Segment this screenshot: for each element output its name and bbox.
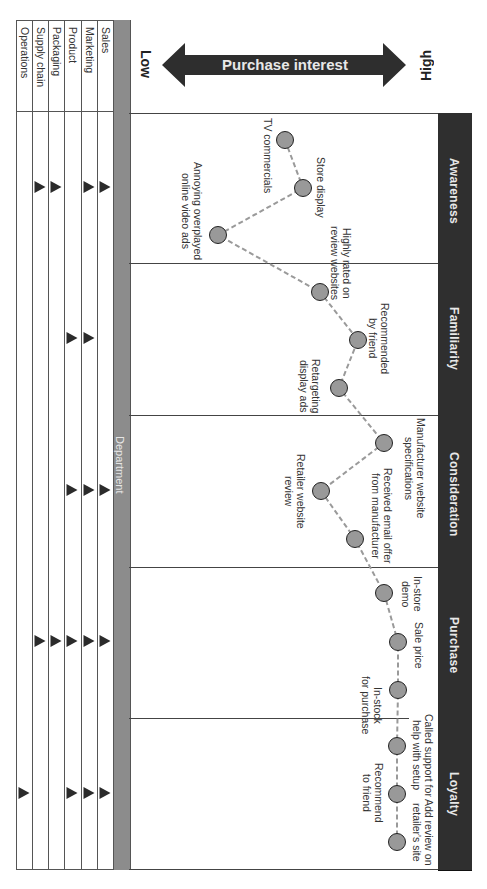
- touchpoint-node-retargeting-ads: [330, 379, 348, 397]
- touchpoint-node-review-websites: [311, 283, 329, 301]
- touchpoint-node-recommend-to-friend: [388, 785, 406, 803]
- touchpoint-node-recommended-by-friend: [349, 331, 367, 349]
- touchpoint-node-sale-price: [389, 633, 407, 651]
- touchpoint-label: TV commercials: [262, 118, 274, 193]
- touchpoint-node-tv-commercials: [276, 131, 294, 149]
- touchpoint-label: Received email offerfrom manufacturer: [370, 468, 394, 564]
- touchpoint-node-email-offer: [346, 530, 364, 548]
- touchpoint-label: Recommendedby friend: [367, 303, 391, 374]
- touchpoint-node-called-support: [388, 737, 406, 755]
- touchpoint-node-manufacturer-specs: [375, 434, 393, 452]
- touchpoint-node-store-display: [294, 179, 312, 197]
- touchpoint-label: Retargetingdisplay ads: [298, 359, 322, 413]
- touchpoint-label: In-storedemo: [400, 576, 424, 612]
- touchpoint-node-retailer-review: [312, 482, 330, 500]
- touchpoint-label: Add review onretailer's site: [411, 799, 435, 866]
- touchpoint-label: Retailer websitereview: [283, 454, 307, 529]
- touchpoint-label: Manufacturer websitespecifications: [403, 418, 427, 518]
- touchpoint-label: Annoying overplayedonline video ads: [180, 162, 204, 260]
- touchpoint-label: In-stockfor purchase: [360, 676, 384, 734]
- touchpoint-label: Sale price: [413, 622, 425, 669]
- touchpoint-label: Recommendto friend: [361, 763, 385, 823]
- touchpoint-node-in-stock: [389, 681, 407, 699]
- touchpoint-node-add-review: [388, 833, 406, 851]
- touchpoint-label: Called support forhelp with setup: [411, 714, 435, 797]
- touchpoint-node-video-ads: [209, 226, 227, 244]
- touchpoint-label: Store display: [315, 157, 327, 218]
- touchpoint-node-in-store-demo: [375, 584, 393, 602]
- touchpoint-label: Highly rated onreview websites: [329, 226, 353, 300]
